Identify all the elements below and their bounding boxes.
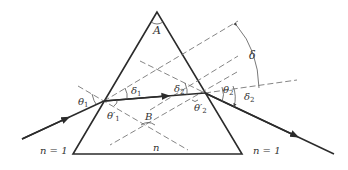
theta2-label: θ2 bbox=[223, 84, 234, 97]
deviation-total-label: δ bbox=[249, 49, 256, 62]
internal-ray-arrow bbox=[104, 96, 166, 101]
prism-diagram: A δ θ1 δ1 θ′1 B δ2 θ′2 θ2 δ2 n n = 1 n =… bbox=[0, 0, 348, 170]
delta2-left-arc bbox=[185, 83, 187, 95]
delta1-label: δ1 bbox=[131, 85, 142, 98]
theta1-prime-label: θ′1 bbox=[107, 110, 120, 123]
delta2-right-label: δ2 bbox=[244, 91, 255, 104]
left-medium-index-label: n = 1 bbox=[40, 145, 68, 156]
delta-total-arc bbox=[237, 26, 259, 88]
right-medium-index-label: n = 1 bbox=[253, 145, 281, 156]
prism-index-label: n bbox=[153, 142, 159, 153]
delta1-arc bbox=[125, 88, 127, 99]
theta1-label: θ1 bbox=[78, 96, 89, 109]
apex-angle-label: A bbox=[152, 24, 161, 37]
B-angle-arc bbox=[141, 123, 155, 126]
theta2-prime-label: θ′2 bbox=[194, 102, 207, 115]
incident-ray-extension bbox=[104, 21, 238, 101]
incident-ray-arrow bbox=[22, 119, 66, 139]
B-angle-label: B bbox=[144, 111, 152, 122]
